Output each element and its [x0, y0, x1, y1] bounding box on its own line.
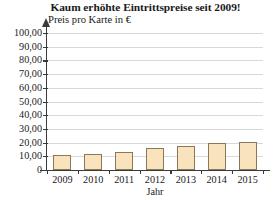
- y-axis-tick-label: 100,00: [0, 28, 42, 38]
- y-axis-tick-label: 0: [0, 165, 42, 175]
- bar: [53, 155, 71, 170]
- x-axis-tick-label: 2010: [78, 174, 109, 186]
- x-axis-tick-label: 2014: [201, 174, 232, 186]
- bar: [84, 154, 102, 170]
- y-axis-tick: [43, 33, 48, 34]
- y-axis-tick-label: 20,00: [0, 138, 42, 148]
- bar-chart-figure: Kaum erhöhte Eintrittspreise seit 2009! …: [0, 0, 277, 200]
- y-axis-tick: [43, 115, 48, 116]
- x-axis-tick-label: 2009: [47, 174, 78, 186]
- y-axis-tick: [43, 60, 48, 61]
- x-axis-title: Jahr: [47, 186, 263, 198]
- x-axis-tick-label: 2013: [170, 174, 201, 186]
- y-axis-tick: [43, 47, 48, 48]
- bar: [239, 142, 257, 170]
- bar: [115, 152, 133, 170]
- y-axis-tick-label: 70,00: [0, 69, 42, 79]
- bar: [208, 143, 226, 170]
- y-axis-tick-label: 90,00: [0, 42, 42, 52]
- y-axis-tick: [43, 74, 48, 75]
- y-axis-tick-label: 60,00: [0, 83, 42, 93]
- y-axis-tick-label: 40,00: [0, 110, 42, 120]
- bar: [146, 148, 164, 170]
- y-axis-tick-label: 30,00: [0, 124, 42, 134]
- y-axis-tick-label: 10,00: [0, 151, 42, 161]
- y-axis-tick: [43, 88, 48, 89]
- y-axis-tick-label: 50,00: [0, 97, 42, 107]
- bar: [177, 146, 195, 170]
- bars-group: [47, 33, 263, 170]
- y-axis-tick: [43, 170, 48, 171]
- x-axis-tick: [263, 170, 264, 174]
- y-axis-tick-label: 80,00: [0, 55, 42, 65]
- y-axis-tick: [43, 143, 48, 144]
- y-axis-arrow-icon: [42, 18, 50, 27]
- y-axis-tick-labels: 010,0020,0030,0040,0050,0060,0070,0080,0…: [0, 0, 42, 200]
- y-axis-tick: [43, 156, 48, 157]
- x-axis-tick-label: 2012: [140, 174, 171, 186]
- y-axis-title: Preis pro Karte in €: [48, 14, 131, 26]
- y-axis-tick: [43, 129, 48, 130]
- x-axis-tick-label: 2011: [109, 174, 140, 186]
- y-axis-tick: [43, 102, 48, 103]
- x-axis-tick-label: 2015: [232, 174, 263, 186]
